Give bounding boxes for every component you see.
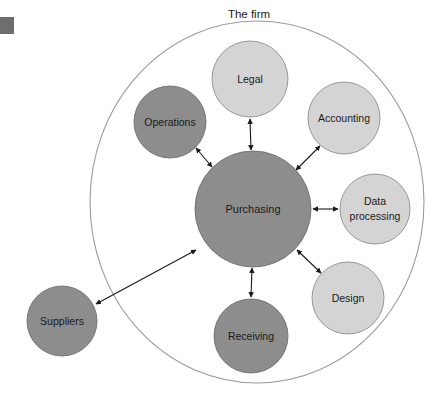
node-receiving-label: Receiving xyxy=(228,330,274,342)
firm-purchasing-network-diagram: The firm Legal Operations Accounting xyxy=(0,0,446,403)
node-purchasing[interactable]: Purchasing xyxy=(195,151,311,267)
node-suppliers-label: Suppliers xyxy=(40,315,84,327)
node-receiving[interactable]: Receiving xyxy=(214,299,288,373)
node-data-processing-label-line2: processing xyxy=(350,210,401,222)
firm-caption-label: The firm xyxy=(228,8,270,20)
node-legal-label: Legal xyxy=(237,73,263,85)
connector-purchasing-operations xyxy=(196,148,212,167)
connector-purchasing-accounting xyxy=(296,146,320,170)
node-accounting-label: Accounting xyxy=(318,112,370,124)
node-design[interactable]: Design xyxy=(312,262,384,334)
figure-number-block xyxy=(0,17,14,34)
node-operations-label: Operations xyxy=(144,116,195,128)
node-data-processing-label-line1: Data xyxy=(364,195,386,207)
node-data-processing[interactable]: Data processing xyxy=(340,174,410,244)
connector-purchasing-legal xyxy=(250,119,251,150)
node-legal[interactable]: Legal xyxy=(212,41,288,117)
node-operations[interactable]: Operations xyxy=(134,86,206,158)
connector-purchasing-design xyxy=(297,250,321,273)
node-accounting[interactable]: Accounting xyxy=(308,82,380,154)
connector-purchasing-suppliers xyxy=(96,250,196,304)
node-suppliers[interactable]: Suppliers xyxy=(27,286,97,356)
diagram-canvas: The firm Legal Operations Accounting xyxy=(0,0,446,403)
node-design-label: Design xyxy=(332,292,365,304)
connector-purchasing-receiving xyxy=(251,268,252,297)
node-purchasing-label: Purchasing xyxy=(225,203,280,215)
